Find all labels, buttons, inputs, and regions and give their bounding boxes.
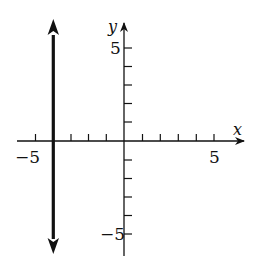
arrowhead-down-icon [48,238,59,254]
y-tick-label-5: 5 [110,38,121,58]
x-tick-label-neg5: −5 [15,147,40,167]
coordinate-plane: x y −5 5 5 −5 [0,0,256,263]
x-axis-ticks [36,134,215,141]
y-axis-label: y [107,17,118,36]
x-tick-label-5: 5 [209,147,220,167]
x-axis-label: x [233,120,242,139]
arrowhead-up-icon [48,19,59,35]
y-tick-label-neg5: −5 [100,224,125,244]
